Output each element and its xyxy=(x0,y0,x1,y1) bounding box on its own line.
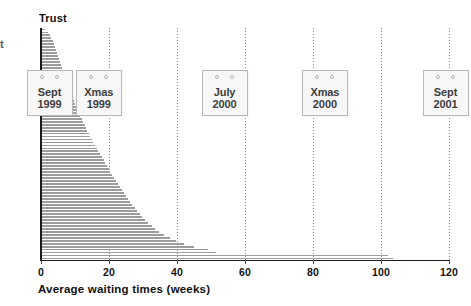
x-tick-label-0: 0 xyxy=(38,266,44,278)
calendar-label-year: 1999 xyxy=(87,99,111,111)
x-tick-label-80: 80 xyxy=(307,266,319,278)
calendar-hole-icon xyxy=(55,75,59,79)
bar xyxy=(41,180,116,182)
x-tick-mark-100 xyxy=(381,260,382,264)
calendar-hole-icon xyxy=(436,75,440,79)
x-tick-mark-80 xyxy=(313,260,314,264)
bar xyxy=(41,171,110,173)
clipped-left-text: t xyxy=(0,38,4,50)
bar xyxy=(41,207,135,209)
bar xyxy=(41,228,155,230)
bar xyxy=(41,49,56,51)
x-tick-mark-20 xyxy=(109,260,110,264)
bar xyxy=(41,142,93,144)
calendar-label: Xmas1999 xyxy=(84,82,113,115)
calendar-hole-icon xyxy=(40,75,44,79)
bar xyxy=(41,165,107,167)
calendar-label: Sept2001 xyxy=(434,82,458,115)
plot-area: 020406080100120 xyxy=(41,28,449,260)
y-axis-title: Trust xyxy=(39,12,67,24)
bar xyxy=(41,58,59,60)
bar xyxy=(41,198,128,200)
x-axis-title: Average waiting times (weeks) xyxy=(38,283,210,295)
bar xyxy=(41,37,51,39)
calendar-hole-icon xyxy=(89,75,93,79)
calendar-label-year: 2001 xyxy=(434,99,458,111)
calendar-label: Sept1999 xyxy=(37,82,61,115)
calendar-marker: Xmas2000 xyxy=(302,70,348,116)
bar xyxy=(41,150,98,152)
bar xyxy=(41,162,105,164)
bar xyxy=(41,55,58,57)
calendar-marker: Sept2001 xyxy=(423,70,469,116)
calendar-marker: July2000 xyxy=(202,70,248,116)
bar xyxy=(41,40,53,42)
bar xyxy=(41,216,142,218)
bar xyxy=(41,231,159,233)
gridline-120 xyxy=(449,28,450,260)
bar xyxy=(41,32,48,34)
bar xyxy=(41,46,55,48)
bar xyxy=(41,201,130,203)
calendar-label: July2000 xyxy=(213,82,237,115)
calendar-label-month: Sept xyxy=(434,87,457,99)
bar xyxy=(41,246,194,248)
bar xyxy=(41,195,126,197)
calendar-label-month: Xmas xyxy=(310,87,339,99)
bar xyxy=(41,139,92,141)
bar xyxy=(41,234,164,236)
calendar-binding-holes xyxy=(77,71,121,82)
bar xyxy=(41,52,57,54)
x-tick-label-20: 20 xyxy=(103,266,115,278)
bar xyxy=(41,159,104,161)
bar xyxy=(41,192,124,194)
calendar-binding-holes xyxy=(424,71,468,82)
calendar-hole-icon xyxy=(451,75,455,79)
bar-series xyxy=(41,28,449,260)
bar xyxy=(41,225,152,227)
calendar-marker: Sept1999 xyxy=(27,70,73,116)
bar xyxy=(41,156,102,158)
calendar-label-year: 2000 xyxy=(213,99,237,111)
calendar-hole-icon xyxy=(230,75,234,79)
bar xyxy=(41,219,145,221)
bar xyxy=(41,124,85,126)
x-tick-label-100: 100 xyxy=(372,266,390,278)
bar xyxy=(41,136,90,138)
x-tick-mark-60 xyxy=(245,260,246,264)
calendar-marker: Xmas1999 xyxy=(76,70,122,116)
calendar-label-month: Xmas xyxy=(84,87,113,99)
bar xyxy=(41,240,176,242)
bar xyxy=(41,213,140,215)
calendar-hole-icon xyxy=(215,75,219,79)
x-tick-label-40: 40 xyxy=(171,266,183,278)
calendar-hole-icon xyxy=(315,75,319,79)
bar xyxy=(41,189,122,191)
calendar-hole-icon xyxy=(330,75,334,79)
x-tick-mark-120 xyxy=(449,260,450,264)
bar xyxy=(41,145,95,147)
bar xyxy=(41,177,114,179)
bar xyxy=(41,174,112,176)
x-tick-mark-0 xyxy=(41,260,42,264)
bar xyxy=(41,168,109,170)
bar xyxy=(41,210,137,212)
bar xyxy=(41,204,132,206)
bar xyxy=(41,127,86,129)
calendar-label-year: 2000 xyxy=(313,99,337,111)
bar xyxy=(41,61,60,63)
bar xyxy=(41,222,148,224)
bar xyxy=(41,255,388,257)
bar xyxy=(41,183,118,185)
y-axis-line xyxy=(40,28,42,260)
bar xyxy=(41,118,82,120)
bar xyxy=(41,148,97,150)
calendar-binding-holes xyxy=(203,71,247,82)
calendar-label-year: 1999 xyxy=(37,99,61,111)
bar xyxy=(41,34,50,36)
bar xyxy=(41,243,184,245)
x-tick-mark-40 xyxy=(177,260,178,264)
bar xyxy=(41,153,100,155)
bar xyxy=(41,186,120,188)
calendar-label-month: July xyxy=(214,87,236,99)
